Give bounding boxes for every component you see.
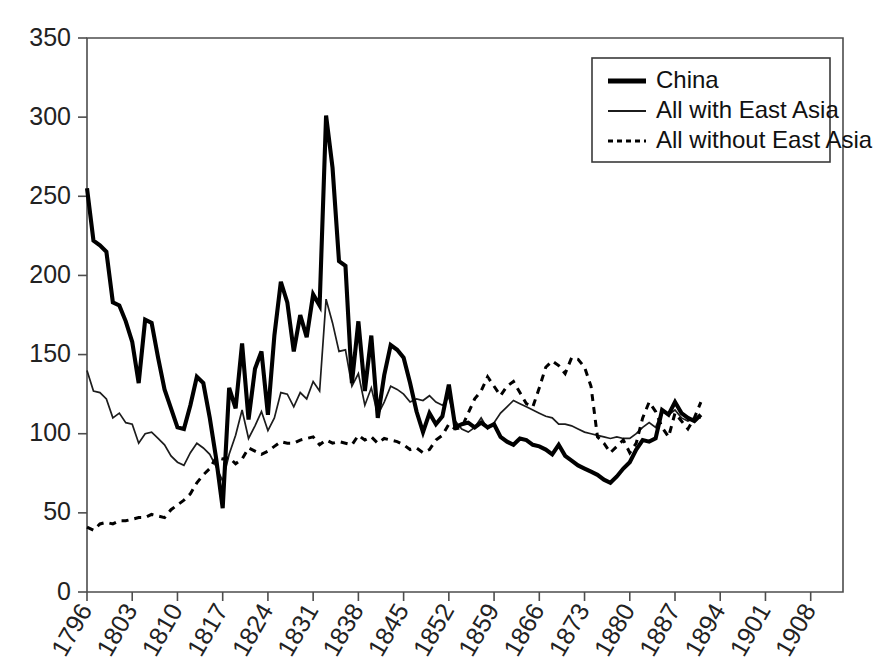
y-tick-label: 50: [43, 497, 71, 525]
y-tick-label: 100: [29, 418, 71, 446]
y-tick-label: 350: [29, 23, 71, 51]
x-tick-label: 1852: [407, 599, 459, 661]
line-chart: 050100150200250300350 179618031810181718…: [0, 0, 887, 664]
legend-label: All with East Asia: [656, 96, 839, 123]
y-axis-ticks: 050100150200250300350: [29, 23, 87, 605]
x-tick-label: 1845: [362, 599, 414, 661]
x-tick-label: 1908: [769, 599, 821, 661]
x-tick-label: 1803: [90, 599, 142, 661]
x-tick-label: 1901: [724, 599, 776, 661]
x-tick-label: 1810: [136, 599, 188, 661]
y-tick-label: 0: [57, 577, 71, 605]
series-line-all-with-east-asia: [87, 299, 701, 481]
y-tick-label: 250: [29, 181, 71, 209]
legend-label: China: [656, 66, 719, 93]
chart-container: 050100150200250300350 179618031810181718…: [0, 0, 887, 664]
x-axis-ticks: 1796180318101817182418311838184518521859…: [45, 592, 821, 661]
chart-legend: ChinaAll with East AsiaAll without East …: [592, 58, 873, 162]
series-line-all-without-east-asia: [87, 358, 701, 531]
x-tick-label: 1831: [271, 599, 323, 661]
series-line-china: [87, 116, 701, 509]
legend-label: All without East Asia: [656, 126, 873, 153]
x-tick-label: 1859: [452, 599, 504, 661]
x-tick-label: 1824: [226, 598, 278, 660]
x-tick-label: 1817: [181, 599, 233, 661]
y-tick-label: 150: [29, 339, 71, 367]
y-tick-label: 300: [29, 102, 71, 130]
x-tick-label: 1838: [317, 599, 369, 661]
x-tick-label: 1880: [588, 599, 640, 661]
x-tick-label: 1866: [498, 599, 550, 661]
x-tick-label: 1796: [45, 599, 97, 661]
y-tick-label: 200: [29, 260, 71, 288]
data-series-group: [87, 116, 701, 531]
x-tick-label: 1887: [633, 599, 685, 661]
x-tick-label: 1894: [678, 598, 730, 660]
x-tick-label: 1873: [543, 599, 595, 661]
